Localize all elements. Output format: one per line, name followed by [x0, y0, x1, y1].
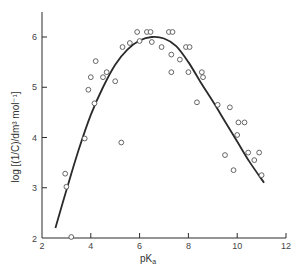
x-tick-label: 12 — [281, 241, 291, 251]
scatter-chart: 2468101223456 pKa log [(1/C)/dm³ mol⁻¹] — [0, 0, 299, 277]
x-tick-label: 8 — [186, 241, 191, 251]
data-point-marker — [169, 70, 174, 75]
y-tick-label: 3 — [32, 183, 37, 193]
data-point-marker — [201, 75, 206, 80]
data-point-marker — [223, 153, 228, 158]
data-point-marker — [148, 30, 153, 35]
x-tick-label: 4 — [88, 241, 93, 251]
data-point-marker — [127, 41, 132, 46]
data-point-marker — [64, 184, 69, 189]
data-point-marker — [170, 30, 175, 35]
data-point-marker — [215, 102, 220, 107]
data-point-marker — [242, 120, 247, 125]
fitted-curve-path — [55, 37, 264, 228]
data-point-marker — [120, 45, 125, 50]
x-tick-label: 6 — [137, 241, 142, 251]
data-point-marker — [101, 75, 106, 80]
y-tick-label: 5 — [32, 82, 37, 92]
data-point-marker — [187, 45, 192, 50]
data-point-marker — [93, 59, 98, 64]
data-point-marker — [169, 52, 174, 57]
data-point-marker — [63, 171, 68, 176]
data-point-marker — [92, 101, 97, 106]
y-axis-title: log [(1/C)/dm³ mol⁻¹] — [10, 91, 21, 182]
data-point-marker — [104, 70, 109, 75]
data-point-marker — [227, 105, 232, 110]
data-point-marker — [235, 133, 240, 138]
data-point-marker — [82, 136, 87, 141]
data-point-marker — [186, 70, 191, 75]
data-point-marker — [231, 168, 236, 173]
data-point-marker — [137, 39, 142, 44]
data-point-marker — [69, 235, 74, 240]
data-point-marker — [149, 40, 154, 45]
data-point-marker — [88, 75, 93, 80]
data-point-marker — [236, 120, 241, 125]
x-axis-title: pKa — [140, 253, 156, 265]
data-point-marker — [177, 57, 182, 62]
y-tick-label: 4 — [32, 133, 37, 143]
data-point-marker — [113, 79, 118, 84]
x-tick-label: 10 — [232, 241, 242, 251]
data-point-marker — [195, 100, 200, 105]
data-point-marker — [199, 70, 204, 75]
x-tick-label: 2 — [39, 241, 44, 251]
data-point-marker — [246, 150, 251, 155]
data-point-marker — [159, 45, 164, 50]
data-point-marker — [257, 150, 262, 155]
data-point-marker — [252, 158, 257, 163]
fitted-curve — [55, 37, 264, 228]
y-tick-label: 2 — [32, 234, 37, 244]
data-point-marker — [119, 140, 124, 145]
data-point-marker — [259, 173, 264, 178]
data-point-marker — [135, 30, 140, 35]
data-point-marker — [86, 87, 91, 92]
y-tick-label: 6 — [32, 32, 37, 42]
